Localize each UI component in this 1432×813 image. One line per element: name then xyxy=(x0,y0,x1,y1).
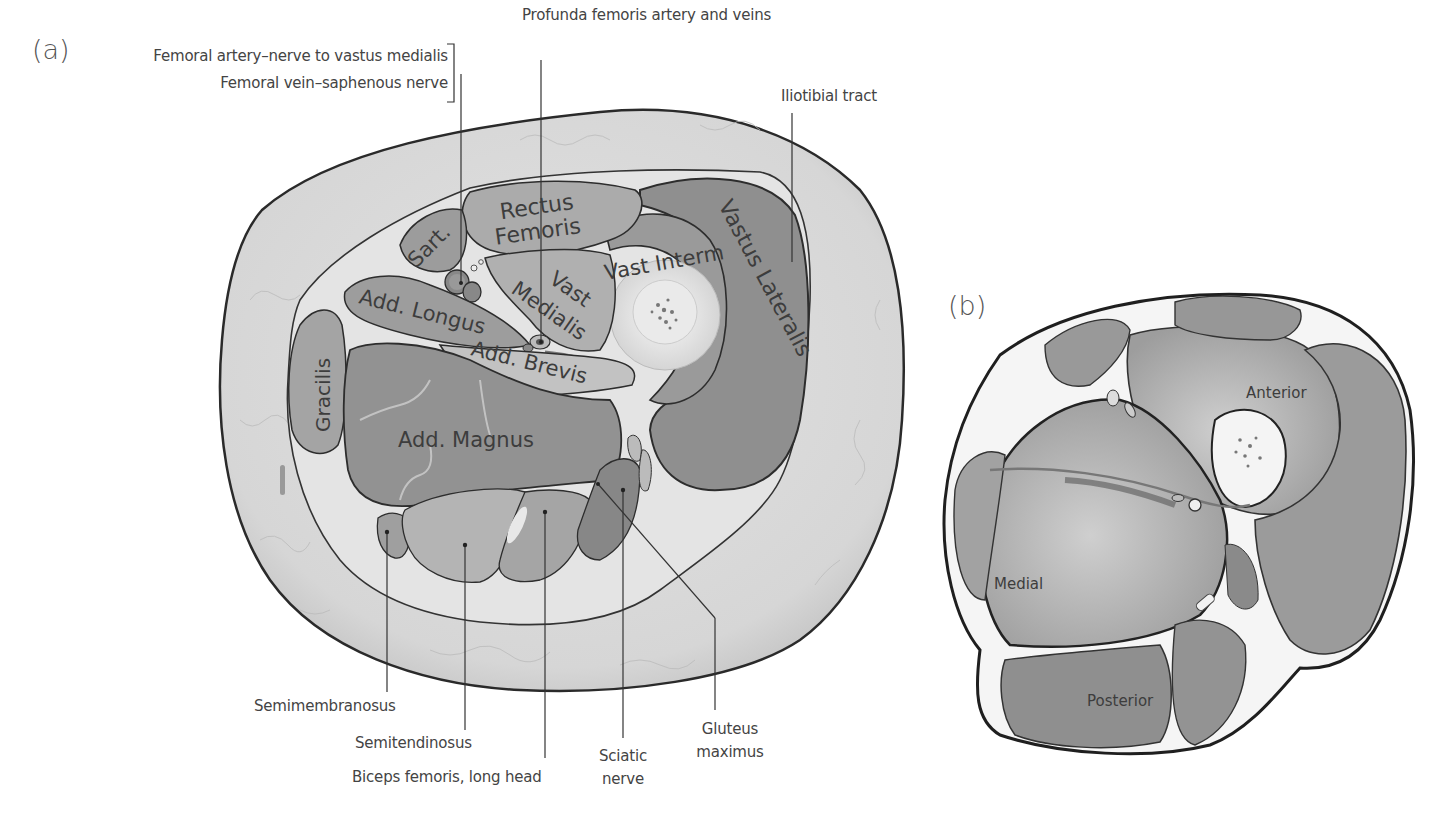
label-posterior: Posterior xyxy=(1087,692,1154,710)
label-gracilis: Gracilis xyxy=(311,358,335,432)
callout-gluteus-1: Gluteus xyxy=(690,720,770,738)
callout-gluteus-2: maximus xyxy=(690,743,770,761)
callout-femoral-artery: Femoral artery–nerve to vastus medialis xyxy=(120,47,448,65)
callout-iliotibial: Iliotibial tract xyxy=(781,87,877,105)
callout-sciatic-2: nerve xyxy=(593,770,653,788)
label-add-magnus: Add. Magnus xyxy=(398,428,534,452)
callout-semitendinosus: Semitendinosus xyxy=(355,734,472,752)
callout-semimembranosus: Semimembranosus xyxy=(254,697,396,715)
callout-sciatic-1: Sciatic xyxy=(593,747,653,765)
callout-biceps-femoris: Biceps femoris, long head xyxy=(352,768,542,786)
label-anterior: Anterior xyxy=(1246,384,1307,402)
callout-femoral-vein: Femoral vein–saphenous nerve xyxy=(120,74,448,92)
callout-profunda: Profunda femoris artery and veins xyxy=(522,6,771,24)
thigh-cross-section-b xyxy=(944,294,1413,753)
label-medial: Medial xyxy=(994,575,1043,593)
thigh-cross-section-a: Sart. Rectus Femoris Vast Interm Vastus … xyxy=(0,0,1432,813)
